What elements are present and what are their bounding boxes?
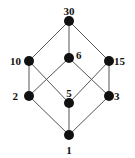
edge-15-5 xyxy=(69,61,109,103)
node-label-6: 6 xyxy=(76,49,82,61)
edge-30-10 xyxy=(29,21,69,61)
edge-10-5 xyxy=(29,61,69,103)
edges-group xyxy=(29,21,109,135)
node-label-3: 3 xyxy=(114,90,120,102)
node-6 xyxy=(64,53,74,63)
edge-6-3 xyxy=(69,58,109,96)
node-label-30: 30 xyxy=(64,5,76,17)
node-10 xyxy=(24,56,34,66)
edge-30-15 xyxy=(69,21,109,61)
node-3 xyxy=(104,91,114,101)
node-2 xyxy=(24,91,34,101)
node-label-1: 1 xyxy=(66,144,72,156)
edge-3-1 xyxy=(69,96,109,135)
node-5 xyxy=(64,98,74,108)
hasse-diagram: 30106152531 xyxy=(0,0,135,158)
node-1 xyxy=(64,130,74,140)
edge-6-2 xyxy=(29,58,69,96)
node-label-10: 10 xyxy=(10,55,22,67)
node-label-5: 5 xyxy=(66,87,72,99)
node-label-2: 2 xyxy=(13,90,19,102)
node-15 xyxy=(104,56,114,66)
node-30 xyxy=(64,16,74,26)
edge-2-1 xyxy=(29,96,69,135)
node-label-15: 15 xyxy=(114,55,126,67)
